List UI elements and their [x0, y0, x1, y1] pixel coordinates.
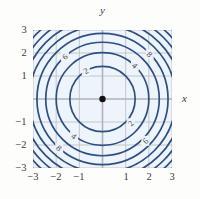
y-tick-3: 3	[17, 25, 31, 35]
x-axis-label: x	[182, 92, 187, 104]
origin-marker	[99, 96, 105, 102]
x-tick-neg3: −3	[23, 172, 43, 182]
x-tick-neg2: −2	[46, 172, 66, 182]
x-tick-neg1: −1	[69, 172, 89, 182]
figure-contour-plot: 26484826 3 2 1 −1 −2 −3 −3 −2 −1 1 2 3 y…	[0, 0, 200, 199]
plot-area: 26484826	[33, 30, 172, 168]
y-tick-neg2: −2	[11, 140, 31, 150]
x-tick-2: 2	[142, 172, 156, 182]
x-tick-1: 1	[119, 172, 133, 182]
y-tick-neg1: −1	[11, 117, 31, 127]
y-tick-1: 1	[17, 71, 31, 81]
y-tick-2: 2	[17, 48, 31, 58]
x-tick-3: 3	[165, 172, 179, 182]
contour-svg: 26484826	[33, 30, 172, 168]
y-axis-label: y	[100, 4, 105, 16]
